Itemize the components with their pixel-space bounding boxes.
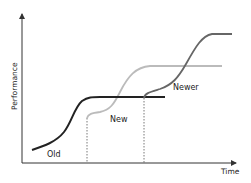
s-curve-diagram: Performance Time Old New Newer — [0, 0, 251, 183]
old-label: Old — [47, 150, 61, 159]
x-axis-label: Time — [220, 167, 240, 176]
new-curve — [87, 66, 222, 118]
new-label: New — [110, 115, 128, 124]
y-axis-label: Performance — [10, 62, 19, 110]
old-curve — [32, 97, 165, 150]
newer-label: Newer — [173, 83, 199, 92]
